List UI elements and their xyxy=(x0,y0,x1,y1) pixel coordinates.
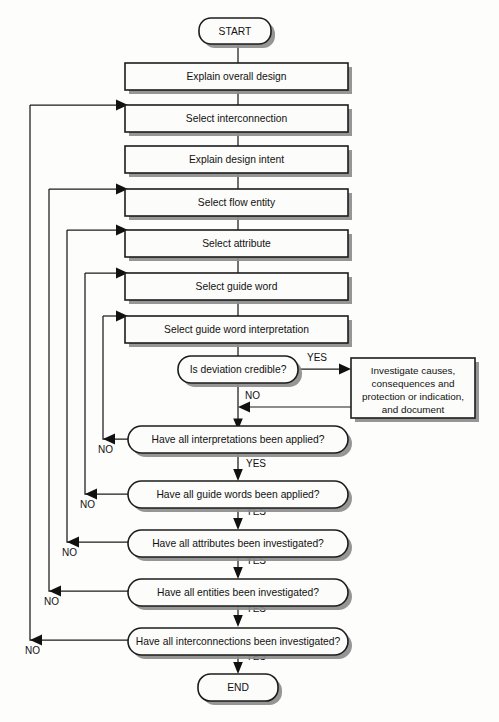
edge-is-deviation-credible-yes: YES xyxy=(298,352,351,375)
node-all-interpretations[interactable]: Have all interpretations been applied? xyxy=(128,426,352,457)
flowchart-svg: NO YES YES YES YES YES YES xyxy=(0,0,499,722)
node-all-attributes[interactable]: Have all attributes been investigated? xyxy=(128,530,352,561)
edge-all-guide-words-no: NO xyxy=(80,268,128,510)
node-select-attribute[interactable]: Select attribute xyxy=(125,230,352,261)
node-investigate-line-1: Investigate causes, xyxy=(371,365,456,376)
node-select-guide-word[interactable]: Select guide word xyxy=(125,273,352,304)
edge-label-no-entities: NO xyxy=(44,596,59,607)
edge-all-interpretations-yes: YES xyxy=(233,453,266,481)
node-explain-design-intent[interactable]: Explain design intent xyxy=(125,146,352,177)
node-explain-overall-design[interactable]: Explain overall design xyxy=(125,63,352,94)
node-select-guide-word-label: Select guide word xyxy=(196,281,278,292)
node-investigate[interactable]: Investigate causes, consequences and pro… xyxy=(351,358,479,422)
node-investigate-line-4: and document xyxy=(382,404,445,415)
node-all-interconnections[interactable]: Have all interconnections been investiga… xyxy=(128,628,352,659)
node-all-entities[interactable]: Have all entities been investigated? xyxy=(128,579,352,610)
node-investigate-line-3: protection or indication, xyxy=(362,391,464,402)
edge-all-interconnections-no: NO xyxy=(25,100,128,656)
node-is-deviation-credible-label: Is deviation credible? xyxy=(190,364,287,375)
node-select-flow-entity-label: Select flow entity xyxy=(198,197,276,208)
node-explain-design-intent-label: Explain design intent xyxy=(189,154,284,165)
edge-label-yes-interpretations: YES xyxy=(246,458,266,469)
node-select-interconnection[interactable]: Select interconnection xyxy=(125,105,352,136)
edge-label-no-attributes: NO xyxy=(62,547,77,558)
node-is-deviation-credible[interactable]: Is deviation credible? xyxy=(178,356,302,387)
node-all-interconnections-label: Have all interconnections been investiga… xyxy=(136,636,341,647)
node-select-interconnection-label: Select interconnection xyxy=(186,113,288,124)
flowchart-canvas: NO YES YES YES YES YES YES xyxy=(0,0,499,722)
node-end-label: END xyxy=(227,682,249,693)
node-end[interactable]: END xyxy=(198,674,282,705)
edge-all-entities-no: NO xyxy=(44,184,128,607)
edge-label-no-deviation: NO xyxy=(245,390,260,401)
edge-label-no-interconnections: NO xyxy=(25,645,40,656)
node-all-guide-words-label: Have all guide words been applied? xyxy=(156,489,319,500)
node-start[interactable]: START xyxy=(199,18,275,48)
node-select-guide-word-interpretation[interactable]: Select guide word interpretation xyxy=(125,316,352,347)
node-start-label: START xyxy=(219,26,253,37)
edge-label-yes-deviation: YES xyxy=(307,352,327,363)
node-select-flow-entity[interactable]: Select flow entity xyxy=(125,189,352,220)
node-investigate-line-2: consequences and xyxy=(372,378,455,389)
node-select-guide-word-interpretation-label: Select guide word interpretation xyxy=(164,324,309,335)
node-explain-overall-design-label: Explain overall design xyxy=(186,71,286,82)
node-select-attribute-label: Select attribute xyxy=(202,238,271,249)
node-all-guide-words[interactable]: Have all guide words been applied? xyxy=(128,481,352,512)
node-all-attributes-label: Have all attributes been investigated? xyxy=(152,538,324,549)
edge-label-no-interpretations: NO xyxy=(98,444,113,455)
edge-all-interpretations-no: NO xyxy=(98,311,128,455)
node-all-entities-label: Have all entities been investigated? xyxy=(157,587,319,598)
node-all-interpretations-label: Have all interpretations been applied? xyxy=(152,434,325,445)
edge-label-no-guide-words: NO xyxy=(80,499,95,510)
